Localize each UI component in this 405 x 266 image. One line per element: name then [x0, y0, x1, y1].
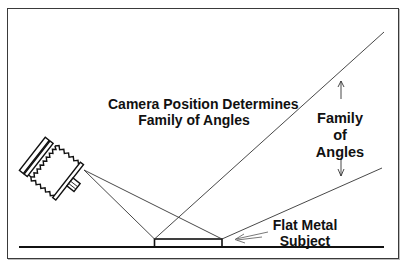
- subject-label-line-1: Flat Metal: [268, 217, 342, 233]
- diagram-title: Camera Position Determines Family of Ang…: [108, 96, 280, 128]
- family-label-line-2: of: [308, 127, 372, 144]
- family-of-angles-label: Family of Angles: [308, 110, 372, 161]
- subject-label-line-2: Subject: [268, 233, 342, 249]
- family-label-line-3: Angles: [308, 144, 372, 161]
- flat-metal-subject: [155, 239, 223, 247]
- diagram-canvas: Camera Position Determines Family of Ang…: [0, 0, 405, 266]
- camera-to-subject-lines: [84, 170, 222, 239]
- family-label-line-1: Family: [308, 110, 372, 127]
- flat-metal-subject-label: Flat Metal Subject: [268, 217, 342, 249]
- camera-icon: [19, 136, 91, 206]
- up-arrow-icon: [338, 81, 344, 99]
- title-line-2: Family of Angles: [108, 112, 280, 128]
- subject-pointer-arrow-icon: [235, 232, 268, 243]
- title-line-1: Camera Position Determines: [108, 96, 280, 112]
